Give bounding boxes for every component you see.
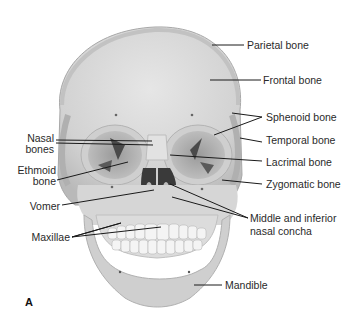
label-middle-inferior-concha-line2: nasal concha (250, 225, 312, 237)
label-zygomatic-bone: Zygomatic bone (266, 178, 341, 190)
label-lacrimal-bone: Lacrimal bone (266, 156, 332, 168)
label-maxillae: Maxillae (20, 231, 70, 243)
left-orbit (81, 125, 149, 185)
label-frontal-bone: Frontal bone (263, 74, 322, 86)
label-temporal-bone: Temporal bone (266, 134, 335, 146)
panel-letter: A (25, 296, 33, 308)
label-nasal-bones-line2: bones (22, 143, 54, 155)
label-vomer: Vomer (20, 200, 60, 212)
label-middle-inferior-concha-line1: Middle and inferior (250, 212, 336, 224)
label-ethmoid-bone-line2: bone (14, 175, 56, 187)
label-mandible: Mandible (225, 279, 268, 291)
label-sphenoid-bone: Sphenoid bone (266, 111, 337, 123)
label-parietal-bone: Parietal bone (247, 39, 309, 51)
